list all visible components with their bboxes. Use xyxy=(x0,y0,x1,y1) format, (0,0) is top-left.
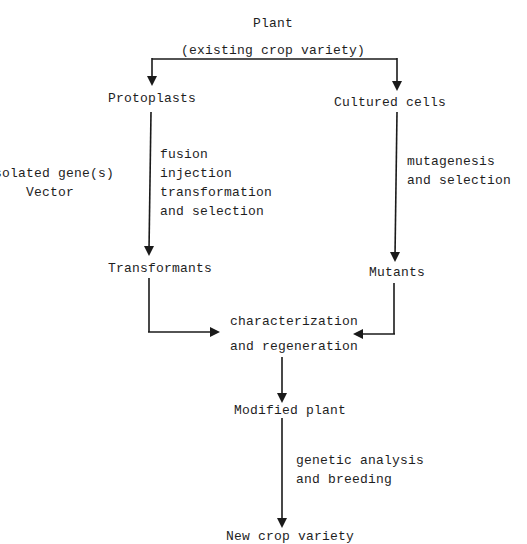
edge-label-left-2: injection xyxy=(160,167,232,181)
node-cultured-cells: Cultured cells xyxy=(334,96,446,110)
edge-label-bottom-1: genetic analysis xyxy=(296,454,424,468)
edge-label-left-1: fusion xyxy=(160,148,208,162)
side-input-vector: Vector xyxy=(26,186,74,200)
node-protoplasts: Protoplasts xyxy=(108,92,196,106)
edge-label-left-3: transformation xyxy=(160,186,272,200)
node-new-crop-variety: New crop variety xyxy=(226,530,354,544)
node-modified-plant: Modified plant xyxy=(234,404,346,418)
title-plant: Plant xyxy=(253,17,293,31)
node-transformants: Transformants xyxy=(108,262,212,276)
subtitle-existing-variety: (existing crop variety) xyxy=(181,44,365,58)
flow-arrows xyxy=(0,0,527,544)
side-input-genes: Isolated gene(s) xyxy=(0,167,114,181)
node-characterization: characterization xyxy=(230,315,358,329)
edge-label-right-2: and selection xyxy=(407,174,511,188)
edge-label-right-1: mutagenesis xyxy=(407,155,495,169)
edge-label-bottom-2: and breeding xyxy=(296,473,392,487)
node-mutants: Mutants xyxy=(369,266,425,280)
edge-label-left-4: and selection xyxy=(160,205,264,219)
node-regeneration: and regeneration xyxy=(230,340,358,354)
